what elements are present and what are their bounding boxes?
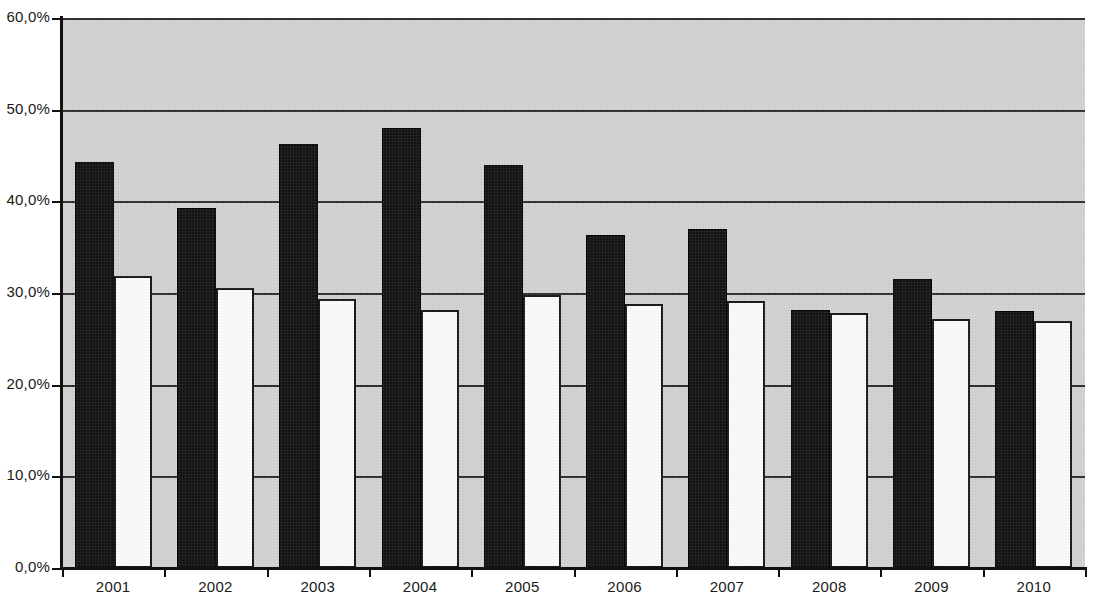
plot-area [62,18,1085,568]
x-axis-label-2001: 2001 [63,578,163,595]
x-axis-tick [267,568,269,577]
bar-series1-2009 [893,279,932,568]
bar-series1-2010 [995,311,1034,568]
y-axis-tick [52,201,62,203]
bar-series2-2010 [1034,321,1072,569]
bar-series1-2002 [177,208,216,568]
y-axis-label: 20,0% [0,375,50,392]
gridline-400 [62,201,1085,203]
x-axis-tick [778,568,780,577]
bar-series1-2004 [382,128,421,568]
bar-series1-2007 [688,229,727,568]
x-axis-tick [1085,568,1087,577]
bar-series2-2004 [421,310,459,569]
y-axis-tick [52,568,62,570]
y-axis-tick [52,18,62,20]
bar-series2-2001 [114,276,152,568]
y-axis-tick [52,385,62,387]
x-axis-label-2005: 2005 [472,578,572,595]
y-axis-label: 50,0% [0,100,50,117]
y-axis-tick [52,476,62,478]
bar-series2-2003 [318,299,356,569]
x-axis-tick [880,568,882,577]
x-axis-label-2002: 2002 [165,578,265,595]
bar-series2-2008 [830,313,868,568]
y-axis-tick [52,110,62,112]
bar-series1-2005 [484,165,523,568]
bar-series1-2003 [279,144,318,568]
bar-series2-2005 [523,295,561,568]
x-axis-tick [574,568,576,577]
y-axis-label: 60,0% [0,8,50,25]
x-axis-tick [164,568,166,577]
bar-series2-2002 [216,288,254,569]
x-axis-tick [983,568,985,577]
bar-series1-2001 [75,162,114,568]
x-axis-tick [471,568,473,577]
x-axis-label-2010: 2010 [984,578,1084,595]
gridline-500 [62,110,1085,112]
x-axis-label-2006: 2006 [575,578,675,595]
bar-series1-2008 [791,310,830,568]
bar-series2-2006 [625,304,663,568]
y-axis-label: 0,0% [0,558,50,575]
bar-series2-2009 [932,319,970,568]
x-axis-tick [676,568,678,577]
x-axis-tick-origin [62,568,64,577]
x-axis-label-2009: 2009 [882,578,982,595]
gridline-600 [62,18,1085,20]
y-axis-label: 30,0% [0,283,50,300]
bar-series2-2007 [727,301,765,568]
bar-chart: 0,0%10,0%20,0%30,0%40,0%50,0%60,0% 20012… [0,0,1101,600]
x-axis-label-2004: 2004 [370,578,470,595]
bar-series1-2006 [586,235,625,568]
y-axis-label: 10,0% [0,466,50,483]
y-axis-tick [52,293,62,295]
x-axis-label-2003: 2003 [268,578,368,595]
x-axis-tick [369,568,371,577]
x-axis-label-2008: 2008 [779,578,879,595]
y-axis-label: 40,0% [0,191,50,208]
x-axis-label-2007: 2007 [677,578,777,595]
